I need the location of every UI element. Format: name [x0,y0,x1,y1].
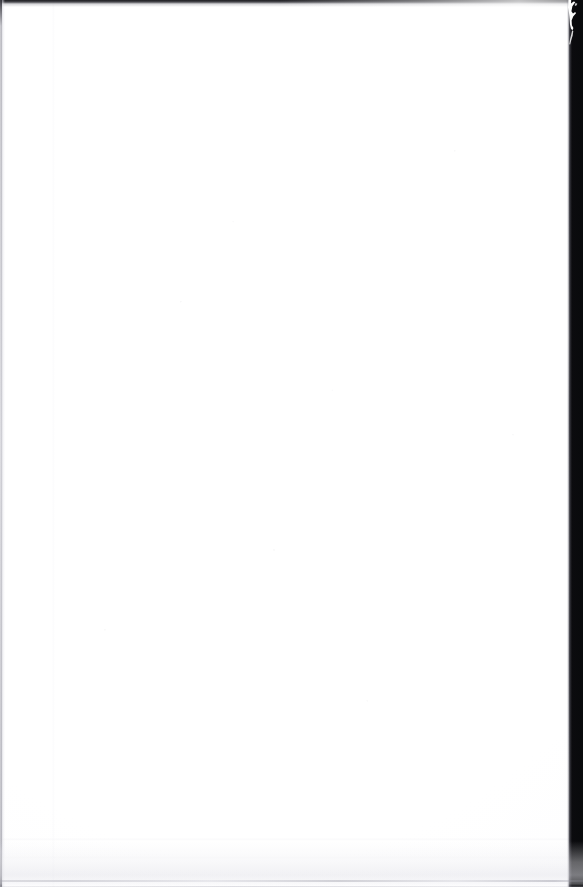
scanned-page [0,0,583,887]
paper-surface [0,0,583,887]
